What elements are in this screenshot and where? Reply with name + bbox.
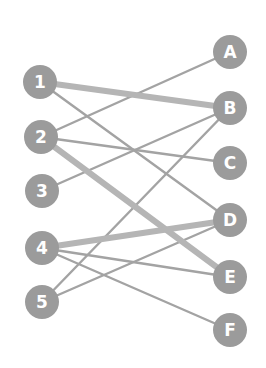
node-2: 2 <box>24 120 58 154</box>
edges-layer <box>40 52 230 330</box>
nodes-layer: 12345ABCDEF <box>23 35 247 347</box>
node-4: 4 <box>25 231 59 265</box>
node-label: D <box>223 210 237 230</box>
bipartite-diagram: 12345ABCDEF <box>0 0 266 368</box>
node-label: 5 <box>36 292 48 312</box>
node-E: E <box>213 260 247 294</box>
graph-svg: 12345ABCDEF <box>0 0 266 368</box>
node-C: C <box>213 146 247 180</box>
node-3: 3 <box>25 174 59 208</box>
node-A: A <box>213 35 247 69</box>
node-F: F <box>213 313 247 347</box>
node-label: C <box>224 153 236 173</box>
node-5: 5 <box>25 285 59 319</box>
edge-4-D <box>42 220 230 248</box>
edge-3-B <box>42 108 230 191</box>
node-label: 4 <box>36 238 48 258</box>
node-label: B <box>224 98 237 118</box>
node-label: 1 <box>34 72 46 92</box>
node-label: E <box>224 267 236 287</box>
node-1: 1 <box>23 65 57 99</box>
node-label: 3 <box>36 181 48 201</box>
node-label: F <box>224 320 236 340</box>
node-B: B <box>213 91 247 125</box>
node-D: D <box>213 203 247 237</box>
node-label: A <box>223 42 237 62</box>
node-label: 2 <box>35 127 47 147</box>
